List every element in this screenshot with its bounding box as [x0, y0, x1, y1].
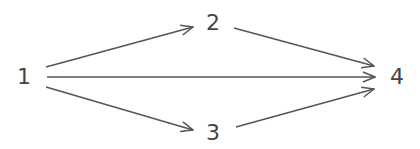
- edge-1-2: [46, 27, 193, 67]
- node-4: 4: [390, 66, 404, 88]
- node-2: 2: [206, 12, 220, 34]
- node-3: 3: [206, 122, 220, 144]
- edge-2-4: [234, 28, 374, 66]
- node-1: 1: [17, 66, 31, 88]
- edge-1-3: [46, 87, 193, 130]
- edge-3-4: [236, 89, 374, 127]
